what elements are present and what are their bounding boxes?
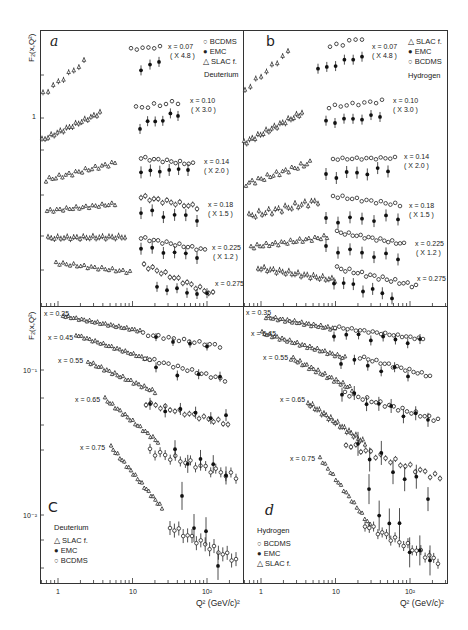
legend-c-emc: ● EMC [54, 547, 77, 555]
legend-d-bcdms: ○ BCDMS [257, 540, 291, 548]
label-b-x018: x = 0.18 [409, 202, 434, 209]
legend-label: BCDMS [61, 556, 88, 565]
label-a-x0225-scale: ( X 1.2 ) [213, 253, 238, 260]
label-a-x018: x = 0.18 [208, 201, 233, 208]
label-c-x035: x = 0.35 [44, 310, 69, 317]
legend-b-emc: ● EMC [408, 48, 431, 56]
label-b-x014-scale: ( X 2.0 ) [404, 162, 429, 169]
legend-d-target: Hydrogen [257, 527, 290, 535]
legend-c-bcdms: ○ BCDMS [54, 557, 88, 565]
y-tick-1: 1 [32, 113, 36, 120]
label-c-x065: x = 0.65 [75, 396, 100, 403]
legend-a-slac: △ SLAC f. [203, 58, 237, 66]
label-a-x018-scale: ( X 1.5 ) [208, 210, 233, 217]
x-tick-c-100: 10² [202, 588, 212, 595]
label-a-x007-scale: ( X 4.8 ) [170, 52, 195, 59]
x-tick-d-1: 1 [259, 588, 263, 595]
legend-c-target: Deuterium [54, 524, 89, 532]
label-c-x045: x = 0.45 [48, 334, 73, 341]
label-b-x007: x = 0.07 [372, 43, 397, 50]
x-tick-d-100: 10² [405, 588, 415, 595]
label-b-x010: x = 0.10 [393, 97, 418, 104]
legend-c-slac: △ SLAC f. [54, 537, 88, 545]
x-tick-c-1: 1 [56, 588, 60, 595]
x-axis-label-c: Q² (GeV/c)² [196, 598, 240, 608]
label-b-x0225: x = 0.225 [415, 240, 444, 247]
legend-label: SLAC f. [416, 37, 442, 46]
y-axis-label-bottom: F₂(x,Q²) [27, 312, 36, 340]
label-b-x018-scale: ( X 1.5 ) [409, 211, 434, 218]
label-a-x0225: x = 0.225 [212, 244, 241, 251]
label-d-x055: x = 0.55 [263, 354, 288, 361]
panel-label-c: C [48, 500, 58, 514]
x-axis-label-d: Q² (GeV/c)² [400, 598, 444, 608]
legend-label: SLAC f. [62, 536, 88, 545]
label-a-x010: x = 0.10 [190, 97, 215, 104]
label-b-x0225-scale: ( X 1.2 ) [416, 249, 441, 256]
label-a-x014: x = 0.14 [204, 158, 229, 165]
label-a-x0275: x = 0.275 [215, 280, 244, 287]
legend-label: BCDMS [415, 57, 442, 66]
legend-a-target: Deuterium [204, 71, 239, 79]
legend-b-target: Hydrogen [408, 72, 441, 80]
x-tick-c-10: 10 [129, 588, 137, 595]
label-d-x035: x = 0.35 [246, 309, 271, 316]
legend-label: BCDMS [264, 539, 291, 548]
x-tick-d-10: 10 [332, 588, 340, 595]
label-a-x007: x = 0.07 [168, 43, 193, 50]
panel-label-d: d [265, 503, 274, 517]
legend-a-bcdms: ○ BCDMS [203, 38, 237, 46]
label-b-x014: x = 0.14 [404, 153, 429, 160]
legend-b-bcdms: ○ BCDMS [408, 58, 442, 66]
label-b-x0275: x = 0.275 [417, 275, 446, 282]
legend-label: EMC [61, 546, 78, 555]
label-b-x010-scale: ( X 3.0 ) [393, 106, 418, 113]
legend-d-slac: △ SLAC f. [257, 560, 291, 568]
legend-d-emc: ● EMC [257, 550, 280, 558]
legend-label: SLAC f. [265, 559, 291, 568]
label-c-x055: x = 0.55 [58, 357, 83, 364]
y-tick-1e-2: 10⁻² [23, 512, 37, 519]
panel-label-b: b [266, 34, 275, 48]
label-b-x007-scale: ( X 4.8 ) [372, 52, 397, 59]
label-a-x014-scale: ( X 2.0 ) [204, 167, 229, 174]
label-d-x045: x = 0.45 [251, 330, 276, 337]
y-tick-1e-1: 10⁻¹ [23, 367, 37, 374]
label-d-x065: x = 0.65 [280, 396, 305, 403]
y-axis-label-top: F₂(x,Q²) [27, 34, 36, 62]
label-a-x010-scale: ( X 3.0 ) [191, 106, 216, 113]
legend-a-emc: ● EMC [203, 48, 226, 56]
panel-label-a: a [50, 34, 58, 48]
legend-label: EMC [415, 47, 432, 56]
label-c-x075: x = 0.75 [80, 444, 105, 451]
label-d-x075: x = 0.75 [290, 455, 315, 462]
data-points [40, 38, 442, 580]
legend-label: EMC [210, 47, 227, 56]
legend-label: SLAC f. [211, 57, 237, 66]
axis-ticks [40, 75, 446, 583]
legend-b-slac: △ SLAC f. [408, 38, 442, 46]
legend-label: EMC [264, 549, 281, 558]
legend-label: BCDMS [210, 37, 237, 46]
